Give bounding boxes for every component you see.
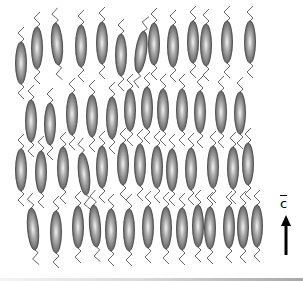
alkyl-tail-icon <box>47 88 53 103</box>
alkyl-tail-icon <box>179 250 185 265</box>
alkyl-tail-icon <box>195 190 201 205</box>
alkyl-tail-icon <box>154 188 160 203</box>
alkyl-tail-icon <box>126 251 132 266</box>
rod-core-icon <box>107 97 118 139</box>
mesogen-molecule <box>76 10 87 82</box>
alkyl-tail-icon <box>78 10 84 25</box>
alkyl-tail-icon <box>230 132 236 147</box>
rod-core-icon <box>177 89 188 131</box>
mesogen-molecule <box>161 192 172 264</box>
alkyl-tail-icon <box>224 63 230 78</box>
mesogen-molecule <box>158 74 169 146</box>
rod-core-icon <box>76 25 87 67</box>
alkyl-tail-icon <box>151 65 157 80</box>
alkyl-tail-icon <box>18 134 24 149</box>
alkyl-tail-icon <box>53 196 59 211</box>
alkyl-tail-icon <box>109 139 115 154</box>
molecule-layers <box>16 6 263 268</box>
alkyl-tail-icon <box>247 63 253 78</box>
alkyl-tail-icon <box>78 67 84 82</box>
mesogen-molecule <box>238 191 249 263</box>
mesogen-molecule <box>87 190 103 263</box>
mesogen-molecule <box>235 77 246 149</box>
rod-core-icon <box>208 146 219 188</box>
mesogen-molecule <box>51 196 62 268</box>
alkyl-tail-icon <box>99 188 105 203</box>
rod-core-icon <box>26 208 41 251</box>
rod-core-icon <box>67 93 78 135</box>
rod-core-icon <box>58 147 69 189</box>
alkyl-tail-icon <box>203 9 209 24</box>
alkyl-tail-icon <box>247 6 253 21</box>
alkyl-tail-icon <box>69 78 75 93</box>
rod-core-icon <box>149 23 160 65</box>
mesogen-molecule <box>245 6 256 78</box>
mesogen-molecule <box>16 27 27 99</box>
mesogen-molecule <box>201 9 212 81</box>
rod-core-icon <box>161 207 172 249</box>
alkyl-tail-icon <box>75 191 81 206</box>
alkyl-tail-icon <box>18 84 24 99</box>
alkyl-tail-icon <box>190 6 196 21</box>
mesogen-molecule <box>188 6 199 78</box>
rod-core-icon <box>152 146 163 188</box>
rod-core-icon <box>158 89 169 131</box>
alkyl-tail-icon <box>32 250 39 265</box>
rod-core-icon <box>88 205 102 248</box>
mesogen-molecule <box>26 85 37 157</box>
alkyl-tail-icon <box>237 134 243 149</box>
mesogen-molecule <box>87 80 98 152</box>
alkyl-tail-icon <box>179 131 185 146</box>
rod-core-icon <box>73 206 84 248</box>
alkyl-tail-icon <box>210 131 216 146</box>
rod-core-icon <box>142 87 153 129</box>
rod-core-icon <box>76 153 91 196</box>
alkyl-tail-icon <box>141 16 149 32</box>
alkyl-tail-icon <box>51 8 58 23</box>
alkyl-tail-icon <box>38 136 44 151</box>
rod-core-icon <box>26 100 37 142</box>
mesogen-molecule <box>97 131 108 203</box>
alkyl-tail-icon <box>108 194 114 209</box>
mesogen-molecule <box>205 192 216 264</box>
rod-core-icon <box>252 205 263 247</box>
alkyl-tail-icon <box>197 133 203 148</box>
alkyl-tail-icon <box>163 192 169 207</box>
alkyl-tail-icon <box>120 185 126 200</box>
alkyl-tail-icon <box>77 138 85 154</box>
rod-core-icon <box>45 103 56 145</box>
alkyl-tail-icon <box>245 185 251 200</box>
alkyl-tail-icon <box>145 191 151 206</box>
mesogen-molecule <box>106 194 117 266</box>
alkyl-tail-icon <box>118 76 124 91</box>
alkyl-tail-icon <box>27 193 34 208</box>
rod-core-icon <box>243 143 254 185</box>
alkyl-tail-icon <box>83 195 91 211</box>
rod-core-icon <box>216 91 227 133</box>
alkyl-tail-icon <box>169 191 175 206</box>
alkyl-tail-icon <box>188 190 194 205</box>
mesogen-molecule <box>49 8 65 81</box>
alkyl-tail-icon <box>254 247 260 262</box>
rod-core-icon <box>50 23 64 66</box>
mesogen-molecule <box>131 16 152 89</box>
director-arrow-icon <box>281 215 291 255</box>
alkyl-tail-icon <box>151 8 157 23</box>
rod-core-icon <box>201 24 212 66</box>
alkyl-tail-icon <box>60 189 66 204</box>
mesogen-molecule <box>16 134 27 206</box>
mesogen-molecule <box>32 12 43 84</box>
rod-core-icon <box>16 42 27 84</box>
alkyl-tail-icon <box>108 251 114 266</box>
mesogen-molecule <box>107 82 118 154</box>
alkyl-tail-icon <box>254 190 260 205</box>
mesogen-molecule <box>67 78 78 150</box>
rod-core-icon <box>51 211 62 253</box>
rod-core-icon <box>168 25 179 67</box>
alkyl-tail-icon <box>160 74 166 89</box>
alkyl-tail-icon <box>210 188 216 203</box>
alkyl-tail-icon <box>118 19 124 34</box>
rod-core-icon <box>36 151 47 193</box>
rod-core-icon <box>235 92 246 134</box>
rod-core-icon <box>228 147 239 189</box>
